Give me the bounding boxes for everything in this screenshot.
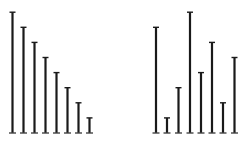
bar-diagram bbox=[0, 0, 249, 146]
bar bbox=[42, 58, 49, 134]
bar bbox=[9, 12, 16, 133]
bar bbox=[187, 12, 194, 133]
bar bbox=[175, 88, 182, 133]
bar bbox=[209, 42, 216, 133]
bar bbox=[31, 42, 38, 133]
bar bbox=[20, 27, 27, 133]
bar bbox=[220, 103, 227, 133]
bar bbox=[75, 103, 82, 133]
bar bbox=[86, 118, 93, 133]
bar bbox=[198, 73, 205, 133]
bar bbox=[53, 73, 60, 133]
unsorted-bars-group bbox=[153, 12, 239, 133]
bar bbox=[64, 88, 71, 133]
bar bbox=[153, 27, 160, 133]
bar bbox=[231, 58, 238, 134]
sorted-bars-group bbox=[9, 12, 93, 133]
bar bbox=[164, 118, 171, 133]
